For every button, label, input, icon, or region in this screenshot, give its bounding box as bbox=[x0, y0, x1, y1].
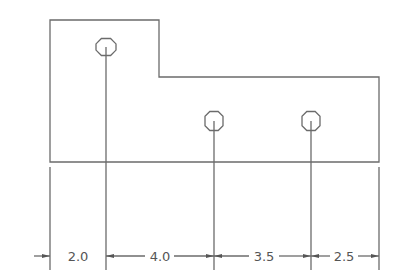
dimension-drawing: 2.0 4.0 3.5 2.5 bbox=[0, 0, 399, 280]
dimension-label-3: 3.5 bbox=[254, 249, 275, 264]
dimension-label-1: 2.0 bbox=[68, 249, 89, 264]
arrowhead-icon bbox=[371, 254, 379, 258]
dimension-label-4: 2.5 bbox=[334, 249, 355, 264]
drawing-canvas: 2.0 4.0 3.5 2.5 bbox=[0, 0, 399, 280]
arrowhead-icon bbox=[303, 254, 311, 258]
arrowhead-icon bbox=[42, 254, 50, 258]
arrowhead-icon bbox=[214, 254, 222, 258]
arrowhead-icon bbox=[311, 254, 319, 258]
dimension-label-2: 4.0 bbox=[150, 249, 171, 264]
arrowhead-icon bbox=[106, 254, 114, 258]
arrowhead-icon bbox=[206, 254, 214, 258]
